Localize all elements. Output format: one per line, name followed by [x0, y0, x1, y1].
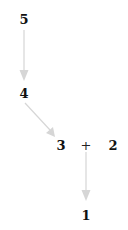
node-3: 3 — [56, 139, 65, 152]
arrowhead-icon — [82, 190, 91, 201]
plus-operator: + — [81, 139, 92, 152]
node-5: 5 — [19, 13, 28, 26]
node-4: 4 — [19, 87, 28, 100]
arrowhead-icon — [20, 70, 29, 81]
edge-5-to-4 — [20, 30, 29, 81]
node-2: 2 — [108, 139, 117, 152]
edges-layer — [0, 0, 128, 230]
edge-4-to-3 — [25, 103, 55, 137]
arrowhead-icon — [46, 127, 55, 137]
node-1: 1 — [81, 209, 90, 222]
edge-plus-to-1 — [82, 152, 91, 201]
